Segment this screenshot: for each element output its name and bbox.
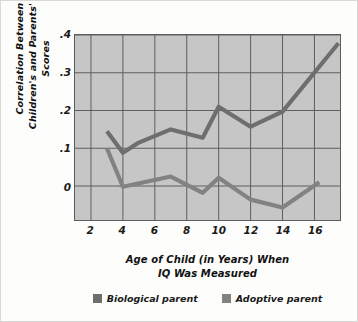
y-axis-title: Correlation Between Children's and Paren…: [13, 0, 52, 147]
x-axis-tick-label: 6: [151, 224, 158, 236]
series-line: [107, 148, 319, 207]
y-axis-tick-labels: 0.1.2.3.4: [53, 34, 71, 221]
y-axis-title-line-1: Correlation Between: [13, 0, 26, 147]
legend-swatch-icon: [222, 294, 231, 303]
chart-figure: Correlation Between Children's and Paren…: [0, 0, 358, 322]
x-axis-title-line-1: Age of Child (in Years) When: [74, 253, 341, 267]
x-axis-tick-label: 16: [308, 224, 323, 236]
x-axis-tick-label: 14: [276, 224, 291, 236]
series-lines: [75, 35, 340, 220]
x-axis-tick-label: 10: [211, 224, 226, 236]
y-axis-tick-label: 0: [64, 181, 71, 193]
legend-item: Biological parent: [93, 293, 198, 304]
x-axis-tick-label: 4: [119, 224, 126, 236]
series-line: [107, 43, 338, 152]
legend-swatch-icon: [93, 294, 102, 303]
x-axis-title: Age of Child (in Years) When IQ Was Meas…: [74, 253, 341, 281]
y-axis-tick-label: .4: [60, 28, 71, 40]
x-axis-tick-label: 2: [86, 224, 93, 236]
x-axis-title-line-2: IQ Was Measured: [74, 267, 341, 281]
y-axis-title-line-2: Children's and Parents' IQ Scores: [26, 0, 52, 147]
legend-item: Adoptive parent: [222, 293, 323, 304]
legend-item-label: Biological parent: [107, 293, 198, 304]
x-axis-tick-label: 12: [244, 224, 259, 236]
plot-area: [74, 34, 341, 221]
chart-legend: Biological parentAdoptive parent: [74, 293, 341, 304]
y-axis-tick-label: .2: [60, 104, 71, 116]
legend-item-label: Adoptive parent: [236, 293, 323, 304]
y-axis-tick-label: .3: [60, 66, 71, 78]
y-axis-tick-label: .1: [60, 142, 71, 154]
x-axis-tick-labels: 246810121416: [74, 224, 341, 238]
x-axis-tick-label: 8: [183, 224, 190, 236]
